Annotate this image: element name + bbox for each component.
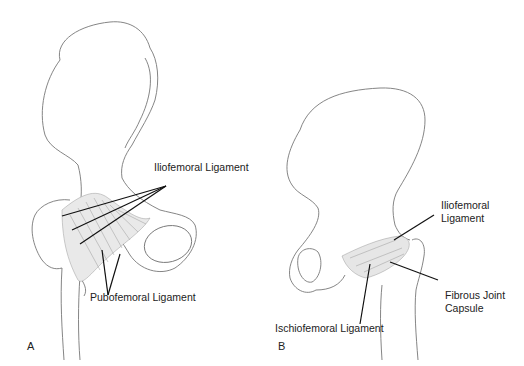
- label-pubofemoral-ligament: Pubofemoral Ligament: [90, 291, 196, 304]
- label-iliofemoral-line2: Ligament: [441, 212, 489, 225]
- label-ischiofemoral-ligament: Ischiofemoral Ligament: [275, 322, 384, 335]
- label-capsule-line2: Capsule: [445, 302, 505, 315]
- panel-a-bone-outline: [32, 22, 196, 360]
- label-capsule-line1: Fibrous Joint: [445, 289, 505, 302]
- panel-a-ligament-shading: [62, 193, 150, 281]
- label-fibrous-joint-capsule: Fibrous Joint Capsule: [445, 289, 505, 315]
- hip-ligament-figure: Iliofemoral Ligament Pubofemoral Ligamen…: [0, 0, 524, 366]
- label-iliofemoral-line1: Iliofemoral: [441, 199, 489, 212]
- panel-letter-b: B: [278, 340, 285, 352]
- label-iliofemoral-ligament-b: Iliofemoral Ligament: [441, 199, 489, 225]
- label-iliofemoral-ligament-a: Iliofemoral Ligament: [154, 161, 249, 174]
- panel-letter-a: A: [27, 340, 34, 352]
- panel-b-ligament-shading: [342, 236, 409, 278]
- panel-b-bone-outline: [287, 88, 425, 360]
